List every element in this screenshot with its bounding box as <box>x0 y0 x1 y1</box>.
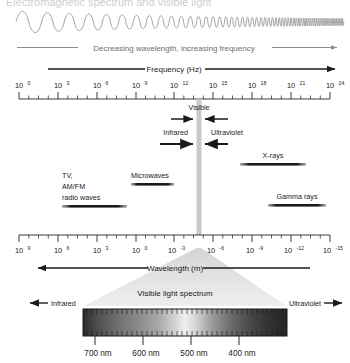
freq-mantissa-0: 10 <box>15 81 23 90</box>
wl-exponent-2: 3 <box>106 245 109 251</box>
spectrum-gradient-bar <box>83 309 287 336</box>
freq-mantissa-1: 10 <box>54 81 62 90</box>
em-spectrum-figure: Electromagnetic spectrum and visible lig… <box>0 0 350 363</box>
wl-exponent-4: -3 <box>181 245 186 251</box>
xrays-label: X-rays <box>263 151 284 160</box>
freq-exponent-1: 3 <box>67 80 70 86</box>
gamma-rays-label: Gamma rays <box>276 192 318 201</box>
microwaves-band-bar <box>131 183 174 186</box>
radio-label-line1: TV, <box>62 171 73 180</box>
wl-mantissa-3: 10 <box>132 246 140 255</box>
wl-mantissa-6: 10 <box>246 246 254 255</box>
freq-exponent-7: 21 <box>300 80 306 86</box>
freq-mantissa-7: 10 <box>287 81 295 90</box>
freq-mantissa-2: 10 <box>93 81 101 90</box>
freq-exponent-2: 6 <box>106 80 109 86</box>
visible-light-band <box>197 99 202 235</box>
nm-label-600: 600 nm <box>132 349 159 358</box>
frequency-axis-label: Frequency (Hz) <box>146 65 201 74</box>
freq-exponent-6: 18 <box>261 80 267 86</box>
freq-exponent-8: 24 <box>339 80 345 86</box>
freq-exponent-3: 9 <box>145 80 148 86</box>
infrared-label: Infrared <box>163 128 188 137</box>
wl-mantissa-0: 10 <box>15 246 23 255</box>
wl-exponent-7: -12 <box>297 245 305 251</box>
xrays-band-bar <box>240 163 306 166</box>
freq-mantissa-5: 10 <box>209 81 217 90</box>
inset-title: Visible light spectrum <box>137 289 213 298</box>
visible-label: Visible <box>188 103 209 112</box>
radio-band-bar <box>62 205 127 208</box>
wl-exponent-6: -9 <box>259 245 264 251</box>
freq-mantissa-6: 10 <box>248 81 256 90</box>
radio-label-line3: radio waves <box>62 193 101 202</box>
freq-exponent-4: 12 <box>183 80 189 86</box>
wl-mantissa-2: 10 <box>93 246 101 255</box>
microwaves-label: Microwaves <box>131 171 169 180</box>
inset-ultraviolet-label: Ultraviolet <box>289 299 321 308</box>
gamma-rays-group: Gamma rays <box>268 192 326 207</box>
nm-label-500: 500 nm <box>180 349 207 358</box>
wl-exponent-5: -6 <box>220 245 225 251</box>
wl-exponent-8: -15 <box>336 245 344 251</box>
wl-mantissa-5: 10 <box>207 246 215 255</box>
freq-mantissa-8: 10 <box>326 81 334 90</box>
freq-exponent-0: 0 <box>28 80 31 86</box>
wl-mantissa-8: 10 <box>323 246 331 255</box>
nm-label-700: 700 nm <box>84 349 111 358</box>
wl-mantissa-4: 10 <box>168 246 176 255</box>
gamma-band-bar <box>268 204 326 207</box>
radio-label-line2: AM/FM <box>62 182 85 191</box>
inset-infrared-label: Infrared <box>51 299 76 308</box>
wl-exponent-0: 9 <box>28 245 31 251</box>
wavelength-axis-label: Wavelength (m) <box>147 264 204 273</box>
freq-mantissa-4: 10 <box>170 81 178 90</box>
nm-label-400: 400 nm <box>228 349 255 358</box>
wl-mantissa-7: 10 <box>284 246 292 255</box>
wl-mantissa-1: 10 <box>54 246 62 255</box>
wl-exponent-3: 0 <box>145 245 148 251</box>
gradient-caption: Decreasing wavelength, increasing freque… <box>93 44 254 53</box>
microwaves-group: Microwaves <box>131 171 174 186</box>
ultraviolet-label: Ultraviolet <box>211 128 243 137</box>
cut-off-title: Electromagnetic spectrum and visible lig… <box>6 0 211 8</box>
freq-mantissa-3: 10 <box>132 81 140 90</box>
wl-exponent-1: 6 <box>67 245 70 251</box>
freq-exponent-5: 15 <box>222 80 228 86</box>
